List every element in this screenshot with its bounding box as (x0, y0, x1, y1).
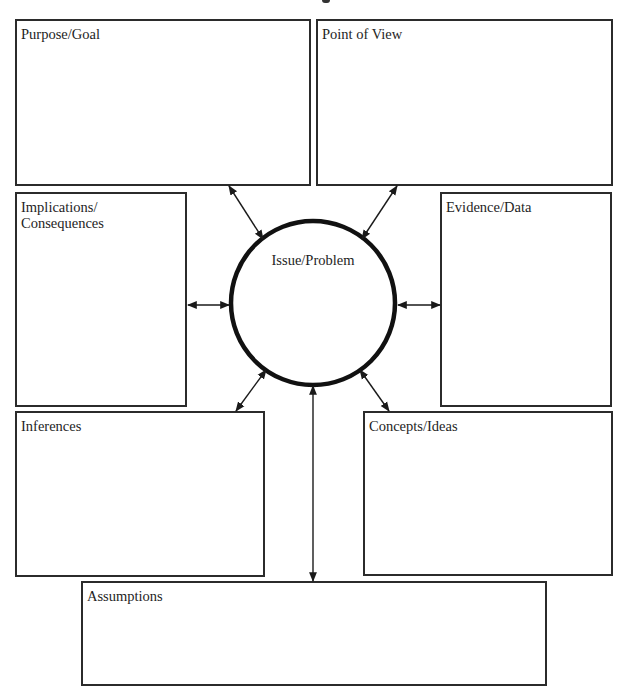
implications-consequences-box[interactable]: Implications/ Consequences (15, 192, 187, 407)
assumptions-box[interactable]: Assumptions (81, 581, 547, 686)
inferences-box[interactable]: Inferences (15, 411, 265, 577)
issue-problem-label: Issue/Problem (262, 252, 364, 269)
purpose-goal-label: Purpose/Goal (21, 26, 100, 42)
purpose-goal-box[interactable]: Purpose/Goal (15, 19, 311, 186)
concepts-ideas-box[interactable]: Concepts/Ideas (363, 411, 613, 576)
assumptions-label: Assumptions (87, 588, 163, 604)
arrow-inferences (236, 370, 266, 411)
evidence-data-box[interactable]: Evidence/Data (440, 192, 612, 407)
arrow-purpose-goal (229, 186, 263, 239)
implications-consequences-label: Implications/ Consequences (21, 199, 104, 231)
arrow-point-of-view (362, 186, 397, 239)
point-of-view-label: Point of View (322, 26, 402, 42)
cropped-title-fragment (322, 0, 330, 3)
evidence-data-label: Evidence/Data (446, 199, 531, 215)
inferences-label: Inferences (21, 418, 81, 434)
issue-problem-circle[interactable] (231, 221, 395, 385)
arrow-concepts-ideas (360, 370, 389, 411)
point-of-view-box[interactable]: Point of View (316, 19, 613, 186)
concepts-ideas-label: Concepts/Ideas (369, 418, 458, 434)
